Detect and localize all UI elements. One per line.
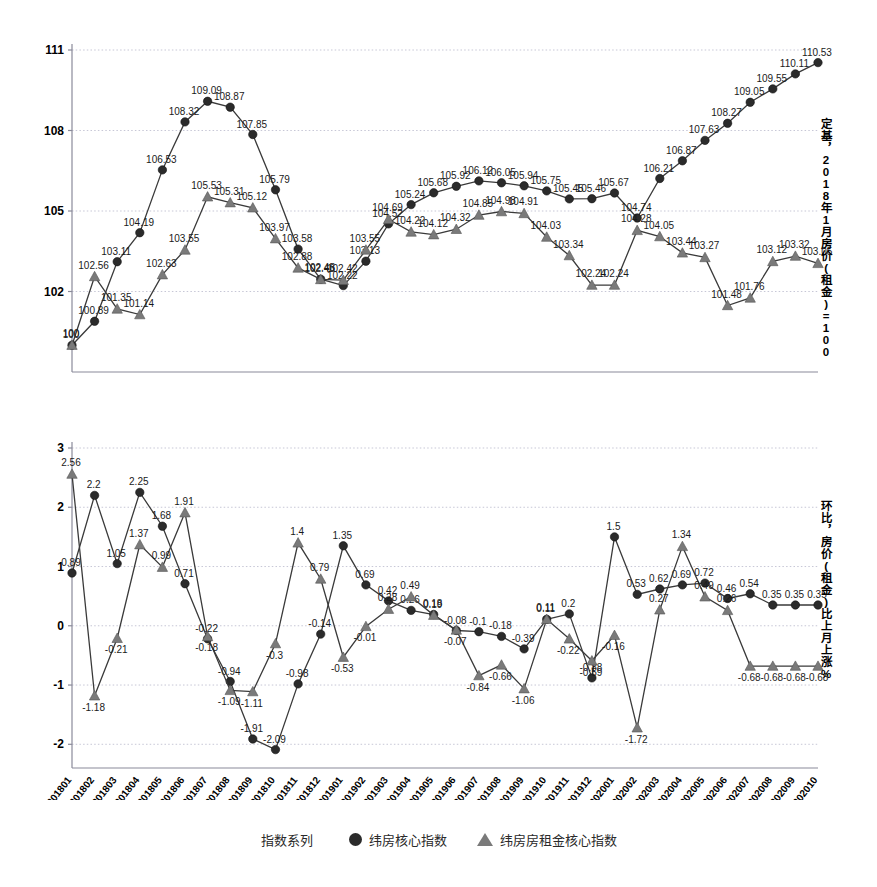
data-point-triangle [632, 225, 642, 235]
data-point-triangle [609, 630, 619, 639]
data-point-triangle [655, 605, 665, 614]
chart-legend: 指数系列 纬房核心指数 纬房房租金核心指数 [0, 822, 877, 856]
legend-item-rent[interactable]: 纬房房租金核心指数 [477, 830, 617, 849]
data-point-circle [475, 177, 483, 185]
data-point-circle [203, 97, 211, 105]
data-point-circle [475, 628, 483, 636]
bottom-chart-svg: -2-101230.892.21.052.251.680.71-0.22-0.9… [0, 400, 877, 800]
data-point-circle [543, 187, 551, 195]
data-label: 1.35 [333, 530, 353, 541]
data-label: 109.05 [734, 86, 765, 97]
data-point-triangle [89, 691, 99, 701]
data-label: 0.49 [694, 580, 714, 591]
data-label: 104.03 [530, 220, 561, 231]
data-label: 0.79 [310, 562, 330, 573]
data-label: 1.91 [174, 496, 194, 507]
data-point-circle [317, 630, 325, 638]
data-label: 105.79 [259, 174, 290, 185]
data-label: 1.34 [672, 529, 692, 540]
data-point-triangle [67, 469, 77, 478]
data-point-circle [678, 157, 686, 165]
top-chart-panel: 102105108111100100.89103.11104.19106.531… [0, 0, 877, 400]
data-label: 0.62 [649, 573, 669, 584]
data-label: -0.16 [602, 641, 625, 652]
triangle-marker-icon [477, 833, 493, 846]
data-label: 0.69 [355, 569, 375, 580]
bottom-right-axis-label: 环比，房价(租金)比上月上涨% [820, 500, 832, 680]
data-point-circle [565, 195, 573, 203]
y-tick-label: -1 [53, 678, 64, 692]
data-label: 103.11 [101, 246, 131, 257]
data-point-circle [90, 491, 98, 499]
data-point-circle [158, 166, 166, 174]
data-label: -0.68 [738, 672, 761, 683]
data-point-triangle [632, 723, 642, 733]
data-label: 105.67 [598, 177, 629, 188]
data-point-circle [430, 189, 438, 197]
data-point-circle [769, 85, 777, 93]
data-point-triangle [270, 233, 280, 243]
chart-page: 102105108111100100.89103.11104.19106.531… [0, 0, 877, 887]
legend-item-index[interactable]: 纬房核心指数 [349, 830, 447, 849]
data-point-triangle [700, 592, 710, 602]
legend-item-index-label: 纬房核心指数 [369, 830, 447, 849]
data-point-circle [656, 174, 664, 182]
data-label: 102.42 [327, 263, 358, 274]
data-point-circle [814, 58, 822, 66]
data-label: 1.68 [152, 510, 172, 521]
data-point-circle [249, 735, 257, 743]
data-point-circle [226, 103, 234, 111]
data-label: 104.32 [440, 212, 471, 223]
data-label: 104.69 [372, 202, 403, 213]
data-label: -0.68 [760, 672, 783, 683]
data-point-circle [746, 590, 754, 598]
data-point-triangle [406, 227, 416, 237]
data-label: -0.22 [557, 645, 580, 656]
data-point-triangle [293, 538, 303, 548]
data-point-circle [136, 229, 144, 237]
data-point-circle [565, 610, 573, 618]
data-label: 0.11 [536, 602, 555, 613]
data-label: 0.28 [378, 592, 398, 603]
data-label: 110.11 [780, 58, 810, 69]
data-label: 107.85 [237, 119, 268, 130]
x-tick-label: 202010 [790, 774, 819, 800]
data-point-circle [407, 200, 415, 208]
data-point-triangle [89, 271, 99, 280]
data-point-circle [701, 136, 709, 144]
y-tick-label: 2 [57, 500, 64, 514]
data-label: 104.74 [621, 202, 652, 213]
data-point-circle [90, 317, 98, 325]
data-label: -0.84 [467, 682, 490, 693]
data-point-circle [769, 601, 777, 609]
data-label: 103.34 [553, 239, 584, 250]
data-point-circle [181, 118, 189, 126]
data-point-circle [610, 189, 618, 197]
data-label: 106.87 [666, 145, 697, 156]
data-label: -0.1 [469, 616, 487, 627]
data-label: 1.05 [106, 548, 126, 559]
top-right-axis-label: 定基，2018年1月房价(租金)=100 [820, 118, 832, 358]
data-label: -0.98 [286, 668, 309, 679]
data-label: -0.18 [195, 642, 218, 653]
data-label: -0.39 [512, 633, 535, 644]
top-chart-svg: 102105108111100100.89103.11104.19106.531… [0, 0, 877, 400]
data-label: 109.55 [757, 73, 788, 84]
data-point-circle [271, 186, 279, 194]
data-point-circle [113, 559, 121, 567]
data-label: 0.71 [174, 568, 194, 579]
data-label: 103.27 [689, 240, 720, 251]
data-point-circle [362, 581, 370, 589]
data-label: 105.12 [237, 191, 268, 202]
data-point-triangle [180, 245, 190, 255]
data-point-circle [520, 645, 528, 653]
y-tick-label: -2 [53, 737, 64, 751]
data-point-triangle [361, 621, 371, 630]
data-label: 0.46 [717, 583, 737, 594]
data-label: 108.87 [214, 91, 245, 102]
data-label: 0.27 [649, 593, 669, 604]
data-label: 104.19 [124, 217, 155, 228]
bottom-right-axis-label-wrap: 环比，房价(租金)比上月上涨% [820, 500, 846, 730]
data-label: -0.07 [444, 636, 467, 647]
data-point-triangle [677, 541, 687, 550]
